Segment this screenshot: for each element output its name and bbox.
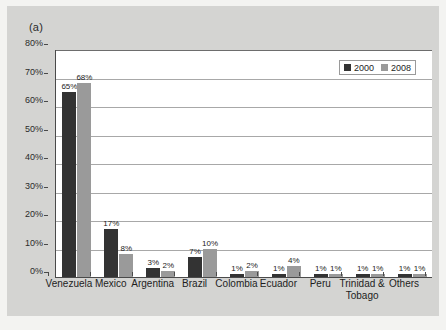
y-axis-tick-mark <box>44 244 48 245</box>
bar-value-label: 1% <box>365 264 391 273</box>
bar-group: 3%2% <box>146 49 175 277</box>
y-axis-tick-mark <box>44 44 48 45</box>
bar-2000-venezuela[interactable] <box>62 92 76 277</box>
y-axis-tick-label: 30% <box>15 181 43 191</box>
panel-letter-label: (a) <box>29 21 43 33</box>
bar-value-label: 1% <box>323 264 349 273</box>
x-axis-tick-mark <box>299 272 300 276</box>
y-axis-tick-label: 20% <box>15 209 43 219</box>
y-axis-tick-label: 10% <box>15 238 43 248</box>
bar-2000-trinidadtobago[interactable] <box>356 274 370 277</box>
bar-value-label: 10% <box>197 239 223 248</box>
chart-panel: (a) 0%10%20%30%40%50%60%70%80% 65%68%17%… <box>7 6 439 316</box>
x-axis-tick-mark <box>132 272 133 276</box>
y-axis-tick-label: 40% <box>15 152 43 162</box>
bar-group: 1%1% <box>314 49 343 277</box>
x-axis-tick-mark <box>174 272 175 276</box>
x-axis-tick-mark <box>383 272 384 276</box>
x-axis-tick-mark <box>48 272 49 276</box>
y-axis-tick-mark <box>44 158 48 159</box>
bar-group: 1%4% <box>272 49 301 277</box>
x-axis-tick-mark <box>90 272 91 276</box>
bar-group: 1%2% <box>230 49 259 277</box>
bar-2000-peru[interactable] <box>314 274 328 277</box>
bar-group: 7%10% <box>188 49 217 277</box>
bar-value-label: 8% <box>113 244 139 253</box>
y-axis-tick-mark <box>44 130 48 131</box>
chart-legend: 20002008 <box>339 60 416 75</box>
figure-container: (a) 0%10%20%30%40%50%60%70%80% 65%68%17%… <box>0 0 446 330</box>
y-axis-tick-mark <box>44 187 48 188</box>
plot-area: 65%68%17%8%3%2%7%10%1%2%1%4%1%1%1%1%1%1% <box>55 50 432 278</box>
bar-group: 65%68% <box>62 49 91 277</box>
bar-2000-ecuador[interactable] <box>272 274 286 277</box>
bar-2000-others[interactable] <box>398 274 412 277</box>
bar-2008-venezuela[interactable] <box>77 83 91 277</box>
x-axis-category-label: Others <box>377 278 431 290</box>
x-axis-tick-mark <box>341 272 342 276</box>
y-axis-tick-label: 60% <box>15 95 43 105</box>
bar-value-label: 68% <box>71 73 97 82</box>
bar-group: 17%8% <box>104 49 133 277</box>
y-axis-tick-label: 50% <box>15 124 43 134</box>
legend-label: 2008 <box>391 63 411 73</box>
legend-entry: 2000 <box>344 63 374 73</box>
bar-group: 1%1% <box>398 49 427 277</box>
bar-group: 1%1% <box>356 49 385 277</box>
y-axis-tick-mark <box>44 73 48 74</box>
bar-2000-brazil[interactable] <box>188 257 202 277</box>
x-axis-tick-mark <box>216 272 217 276</box>
legend-label: 2000 <box>354 63 374 73</box>
y-axis-tick-label: 70% <box>15 67 43 77</box>
legend-entry: 2008 <box>381 63 411 73</box>
y-axis-tick-mark <box>44 215 48 216</box>
x-axis-tick-mark <box>257 272 258 276</box>
y-axis-tick-mark <box>44 101 48 102</box>
x-axis-tick-mark <box>425 272 426 276</box>
bar-2000-colombia[interactable] <box>230 274 244 277</box>
bar-value-label: 2% <box>155 261 181 270</box>
legend-swatch-icon <box>344 64 351 71</box>
bar-value-label: 4% <box>281 256 307 265</box>
bar-value-label: 1% <box>407 264 433 273</box>
bar-value-label: 2% <box>239 261 265 270</box>
y-axis-tick-label: 80% <box>15 38 43 48</box>
legend-swatch-icon <box>381 64 388 71</box>
bar-value-label: 17% <box>98 219 124 228</box>
y-axis-tick-label: 0% <box>15 266 43 276</box>
